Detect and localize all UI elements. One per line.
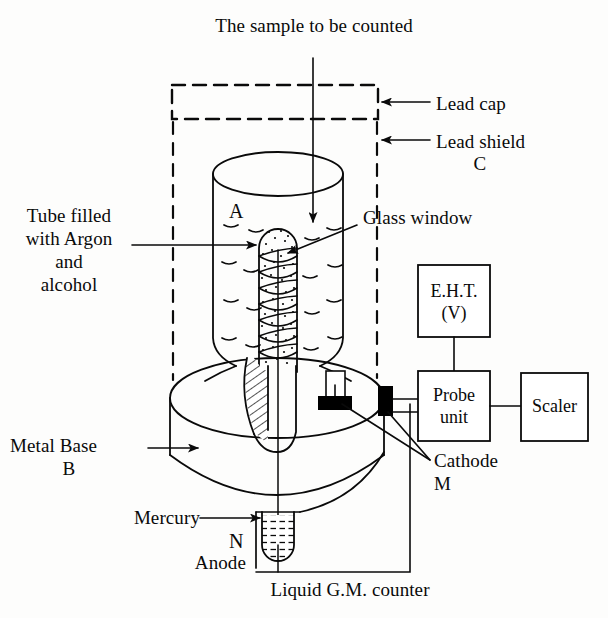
figure-canvas: The sample to be counted Lead cap Lead s…: [0, 0, 608, 618]
mercury-well: [256, 512, 300, 572]
label-anode: Anode: [128, 551, 246, 574]
lead-cap-outline: [172, 85, 378, 119]
label-cathode: Cathode: [434, 449, 498, 472]
label-sample-to-be-counted: The sample to be counted: [196, 14, 432, 37]
label-cathode-m: M: [434, 472, 451, 495]
scaler-label: Scaler: [521, 396, 588, 417]
label-lead-cap: Lead cap: [436, 92, 506, 115]
probe-unit-box[interactable]: [418, 371, 490, 441]
label-tube-filled-line3: and: [6, 250, 132, 273]
cathode-terminal-right: [378, 386, 393, 416]
label-glass-window: Glass window: [363, 206, 472, 229]
probe-unit-label-line1: Probe: [418, 385, 490, 406]
label-mercury: Mercury: [84, 506, 200, 529]
metal-base-cylinder: [170, 358, 384, 495]
label-metal-base: Metal Base: [10, 434, 97, 457]
label-tube-filled-line4: alcohol: [6, 273, 132, 296]
eht-box-label-line1: E.H.T.: [418, 281, 490, 302]
label-lead-shield: Lead shield: [436, 130, 525, 153]
eht-box-label-line2: (V): [418, 303, 490, 324]
label-metal-base-b: B: [10, 457, 128, 480]
label-marker-a: A: [229, 200, 244, 223]
label-tube-filled-line1: Tube filled: [6, 204, 132, 227]
label-tube-filled-line2: with Argon: [6, 227, 132, 250]
probe-unit-label-line2: unit: [418, 407, 490, 428]
label-marker-n: N: [229, 530, 244, 553]
figure-caption: Liquid G.M. counter: [250, 578, 450, 601]
label-lead-shield-c: C: [436, 152, 524, 175]
probe-wiring: [393, 399, 418, 412]
cathode-terminal-center: [318, 371, 352, 410]
liquid-fill-dashes: [222, 225, 342, 350]
